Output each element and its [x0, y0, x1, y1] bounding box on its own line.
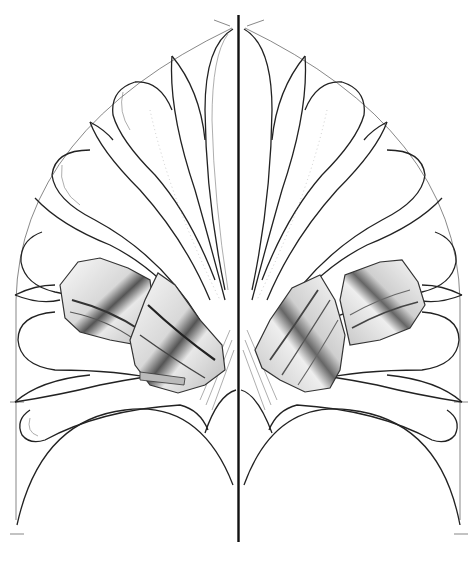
palmette-drawing — [0, 0, 473, 563]
right-fragment-lower — [255, 275, 345, 392]
central-axis — [214, 15, 264, 542]
right-leaves — [244, 29, 462, 442]
right-fragment-upper — [340, 260, 425, 345]
